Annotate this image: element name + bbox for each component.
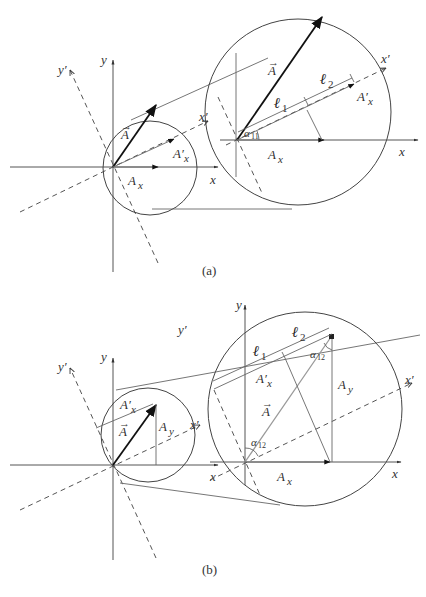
large-y-label-b: y [234, 297, 242, 312]
svg-text:→: → [119, 417, 130, 429]
large-Ax-label-b: A x [276, 469, 292, 487]
svg-text:x: x [183, 152, 189, 164]
figure-a: y y′ x′ x A → A′ x A x A [10, 17, 418, 278]
small-y-label: y [99, 52, 107, 67]
svg-text:A: A [127, 173, 136, 188]
svg-text:y: y [347, 383, 353, 395]
svg-text:A′: A′ [172, 146, 184, 161]
svg-text:→: → [268, 56, 279, 68]
svg-text:11: 11 [251, 132, 259, 141]
l2-label: ℓ 2 [320, 71, 334, 90]
large-Ay-label-b: A y [337, 377, 353, 395]
svg-text:α: α [251, 436, 257, 448]
svg-text:A: A [276, 469, 285, 484]
svg-text:2: 2 [328, 78, 334, 90]
svg-text:A′: A′ [255, 371, 267, 386]
small-circle [103, 121, 197, 215]
svg-text:→: → [262, 397, 273, 409]
length-bar [238, 78, 352, 132]
large-xp-label-b: x′ [404, 372, 414, 387]
svg-text:12: 12 [258, 441, 266, 450]
small-Axp-label: A′ x [172, 146, 189, 164]
tangent-bottom-b [120, 483, 280, 505]
projection-line [307, 110, 322, 140]
svg-text:x: x [286, 475, 292, 487]
caption-b: (b) [202, 562, 217, 577]
small-Ay-label-b: A y [158, 419, 174, 437]
svg-text:x: x [266, 377, 272, 389]
l2-label-b: ℓ 2 [292, 324, 306, 343]
svg-text:12: 12 [317, 353, 325, 362]
svg-text:x: x [130, 403, 136, 415]
small-A-label-b: A → [118, 417, 130, 439]
small-A-label: A → [120, 120, 132, 142]
large-xp-axis-b [210, 383, 412, 480]
svg-text:x: x [137, 179, 143, 191]
svg-text:A′: A′ [356, 89, 368, 104]
l1-label: ℓ 1 [274, 95, 288, 114]
length-bar-midtick [304, 97, 308, 105]
small-xp-axis-b [20, 425, 200, 510]
vector-projection-diagram: y y′ x′ x A → A′ x A x A [0, 0, 426, 597]
small-y-label-b: y [99, 349, 107, 364]
svg-text:A′: A′ [119, 397, 131, 412]
large-Axp-label: A′ x [356, 89, 373, 107]
svg-text:x: x [367, 95, 373, 107]
figure-b: y y′ x′ x A′ x A → A y y [10, 297, 420, 577]
large-x-label-b: x [391, 466, 398, 481]
svg-text:ℓ: ℓ [292, 324, 298, 340]
caption-a: (a) [202, 263, 216, 278]
svg-text:ℓ: ℓ [320, 71, 326, 87]
large-yp-axis [218, 97, 262, 193]
svg-text:ℓ: ℓ [253, 343, 259, 359]
svg-text:ℓ: ℓ [274, 95, 280, 111]
angle-a11-label: α 11 [244, 127, 259, 141]
svg-text:A: A [158, 419, 167, 434]
small-x-label: x [209, 172, 216, 187]
svg-text:2: 2 [300, 331, 306, 343]
small-yp-label: y′ [56, 62, 67, 77]
large-A-label-b: A → [261, 397, 273, 419]
small-xp-label-b: x′ [189, 417, 199, 432]
small-Axp-label-b: A′ x [119, 397, 136, 415]
svg-text:α: α [244, 127, 250, 139]
svg-text:1: 1 [261, 350, 267, 362]
small-circle-b [101, 388, 195, 482]
angle-bottom-label-b: α 12 [251, 436, 266, 450]
svg-text:y: y [168, 425, 174, 437]
small-vector-A [113, 105, 156, 167]
svg-text:1: 1 [282, 102, 288, 114]
svg-text:A: A [267, 147, 276, 162]
large-yp-label-b: y′ [176, 322, 187, 337]
large-Ax-label: A x [267, 147, 283, 165]
large-vector-A [237, 17, 322, 140]
large-circle [205, 19, 391, 205]
svg-text:→: → [121, 120, 132, 132]
large-Axp-label-b: A′ x [255, 371, 272, 389]
small-yp-label-b: y′ [56, 359, 67, 374]
large-x-label: x [398, 144, 405, 159]
projection-line-b [285, 358, 330, 462]
small-xp-label: x′ [198, 109, 208, 124]
small-x-label-b: x [209, 469, 216, 484]
large-A-label: A → [267, 56, 279, 78]
svg-text:A: A [337, 377, 346, 392]
large-xp-label: x′ [380, 51, 390, 66]
small-Ax-label: A x [127, 173, 143, 191]
length-bar-endtick [350, 74, 354, 82]
svg-text:α: α [310, 348, 316, 360]
svg-text:x: x [277, 153, 283, 165]
